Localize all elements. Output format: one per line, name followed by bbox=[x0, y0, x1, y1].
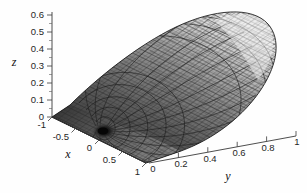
x-tick-label-0: -1 bbox=[38, 119, 46, 130]
z-tick-label-5: 0.5 bbox=[31, 26, 44, 37]
singularity-core bbox=[98, 128, 109, 135]
z-axis-ticks bbox=[47, 15, 52, 117]
z-axis: 0 0.1 0.2 0.3 0.4 0.5 0.6 z bbox=[11, 9, 52, 122]
x-tick-label-3: 0.5 bbox=[103, 154, 116, 165]
z-tick-label-3: 0.3 bbox=[31, 60, 44, 71]
z-tick-label-4: 0.4 bbox=[31, 43, 44, 54]
z-tick-label-6: 0.6 bbox=[31, 9, 44, 20]
y-tick-label-3: 0.6 bbox=[232, 147, 245, 158]
x-tick-label-4: 1 bbox=[135, 166, 140, 177]
x-tick-label-1: -0.5 bbox=[53, 131, 69, 142]
x-axis-title: x bbox=[64, 147, 71, 161]
surface-plot-figure: 0 0.1 0.2 0.3 0.4 0.5 0.6 z -1 -0.5 0 0.… bbox=[0, 0, 307, 193]
y-tick-label-0: 0 bbox=[150, 163, 155, 174]
z-tick-label-2: 0.2 bbox=[31, 77, 44, 88]
y-tick-label-2: 0.4 bbox=[203, 153, 216, 164]
z-tick-label-1: 0.1 bbox=[31, 94, 44, 105]
y-tick-label-4: 0.8 bbox=[261, 142, 274, 153]
x-tick-label-2: 0 bbox=[87, 142, 92, 153]
y-tick-label-5: 1 bbox=[294, 136, 299, 147]
y-tick-label-1: 0.2 bbox=[174, 158, 187, 169]
y-axis-title: y bbox=[224, 169, 231, 183]
surface-mesh bbox=[40, 0, 300, 193]
plot-canvas: 0 0.1 0.2 0.3 0.4 0.5 0.6 z -1 -0.5 0 0.… bbox=[0, 0, 307, 193]
z-axis-title: z bbox=[11, 55, 17, 69]
